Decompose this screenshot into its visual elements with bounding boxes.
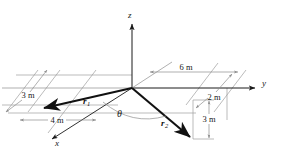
z-axis-label: z — [127, 10, 132, 20]
theta-arc — [103, 102, 166, 119]
theta-label: θ — [117, 108, 122, 119]
dim-4m-label: 4 m — [51, 115, 64, 125]
dim-3m-right-label: 3 m — [203, 114, 216, 124]
dim-3m-left-label: 3 m — [22, 90, 35, 100]
dim-2m-arrow-up — [216, 74, 232, 92]
angle-arc-group — [103, 102, 166, 119]
x-axis-back-line — [132, 62, 172, 88]
dim-3m-left-arrow-up — [30, 70, 47, 92]
dim-2m-label: 2 m — [208, 92, 221, 102]
diagram-canvas: z y x r1 r2 θ 6 m 3 m — [0, 0, 281, 156]
coordinate-axes — [2, 24, 255, 139]
vector-r2-line — [132, 88, 190, 137]
vector-r2-subscript: 2 — [165, 122, 169, 129]
statics-vector-diagram: z y x r1 r2 θ 6 m 3 m — [0, 0, 281, 156]
y-axis-label: y — [261, 78, 266, 88]
vector-r2-label: r2 — [161, 118, 169, 129]
x-axis-label: x — [54, 138, 59, 148]
dimension-2m — [196, 74, 232, 108]
dim-2m-arrow-down — [196, 98, 208, 108]
vector-r1-subscript: 1 — [87, 100, 90, 107]
dim-6m-label: 6 m — [180, 62, 193, 72]
